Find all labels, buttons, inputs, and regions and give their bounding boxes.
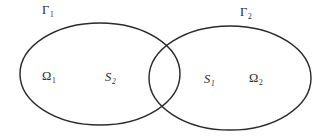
- label-interface-s2: S2: [105, 71, 115, 84]
- label-domain-omega1: Ω1: [42, 70, 55, 83]
- ellipse-omega2: [149, 26, 311, 130]
- label-interface-s1: S1: [204, 73, 214, 86]
- venn-diagram-figure: Γ1 Γ2 Ω1 S2 S1 Ω2: [0, 0, 325, 140]
- label-boundary-gamma1: Γ1: [42, 4, 53, 17]
- label-domain-omega2: Ω2: [249, 72, 262, 85]
- label-boundary-gamma2: Γ2: [240, 6, 251, 19]
